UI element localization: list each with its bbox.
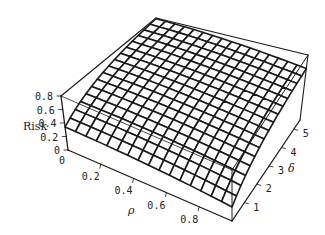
x-tick (133, 178, 134, 182)
x-tick-label: 0 (59, 155, 65, 166)
y-tick-label: 1 (253, 202, 259, 213)
z-tick-label: 0.6 (37, 105, 55, 116)
x-tick-label: 0.4 (115, 185, 133, 196)
x-tick-label: 0.8 (180, 214, 198, 225)
x-tick (165, 193, 166, 197)
y-tick (294, 129, 298, 130)
z-tick-label: 0.8 (35, 91, 53, 102)
y-tick-label: 2 (266, 183, 272, 194)
x-tick-label: 0.2 (82, 171, 100, 182)
z-tick-label: 0.2 (40, 132, 58, 143)
z-axis-label: Risk (23, 120, 47, 133)
x-tick (198, 207, 199, 211)
y-tick (281, 148, 285, 149)
x-tick-label: 0.6 (147, 200, 165, 211)
x-axis-label: ρ (127, 204, 135, 217)
y-tick (244, 203, 248, 204)
x-tick (100, 164, 101, 168)
surface-plot: 00.20.40.60.800.20.40.60.812345 Risk ρ δ (0, 0, 325, 235)
y-tick (257, 184, 261, 185)
y-tick-label: 4 (290, 147, 296, 158)
y-tick (269, 166, 273, 167)
y-tick-label: 3 (278, 165, 284, 176)
y-tick-label: 5 (303, 128, 309, 139)
y-axis-label: δ (288, 162, 295, 175)
